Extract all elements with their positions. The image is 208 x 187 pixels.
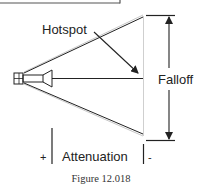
attenuation-minus-sign: -: [148, 151, 152, 163]
falloff-label: Falloff: [158, 72, 194, 87]
attenuation-label: Attenuation: [62, 149, 128, 164]
hotspot-pointer-arrow: [94, 32, 138, 73]
top-box-border: [0, 0, 120, 4]
figure-caption: Figure 12.018: [72, 173, 131, 184]
attenuation-plus-sign: +: [40, 151, 46, 163]
hotspot-label: Hotspot: [42, 22, 87, 37]
spotlight-diagram: Hotspot Falloff + Attenuation - Figure 1…: [0, 0, 208, 187]
spotlight-icon: [14, 70, 52, 87]
